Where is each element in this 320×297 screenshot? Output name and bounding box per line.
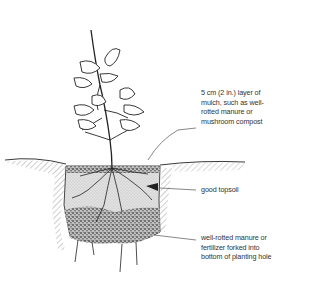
- manure-leader: [154, 235, 196, 240]
- topsoil-label-line: good topsoil: [201, 185, 239, 195]
- mulch-leader: [148, 128, 196, 160]
- manure-label-line: well-rotted manure or: [201, 233, 271, 243]
- manure-label-line: bottom of planting hole: [201, 252, 271, 262]
- mulch-label-line: rotted manure or: [201, 107, 264, 117]
- mulch-label-line: mulch, such as well-: [201, 98, 264, 108]
- mulch-label-line: mushroom compost: [201, 117, 264, 127]
- planting-hole: [64, 166, 160, 244]
- mulch-label: 5 cm (2 in.) layer of mulch, such as wel…: [201, 88, 264, 126]
- plant: [74, 30, 144, 168]
- manure-label-line: fertilizer forked into: [201, 243, 271, 253]
- mulch-label-line: 5 cm (2 in.) layer of: [201, 88, 264, 98]
- topsoil-label: good topsoil: [201, 185, 239, 195]
- manure-label: well-rotted manure or fertilizer forked …: [201, 233, 271, 262]
